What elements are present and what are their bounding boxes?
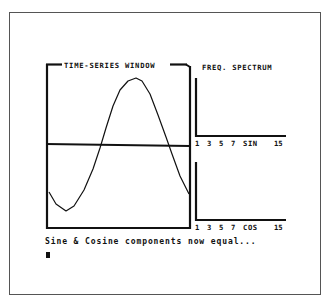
ts-border-corner bbox=[186, 65, 190, 68]
freq-title: FREQ. SPECTRUM bbox=[202, 63, 272, 72]
cos-tick-15: 15 bbox=[274, 223, 283, 232]
cos-tick-3: 3 bbox=[207, 223, 211, 232]
sin-tick-15: 15 bbox=[274, 139, 283, 148]
ts-title: TIME-SERIES WINDOW bbox=[64, 61, 155, 70]
sin-axis-label: SIN bbox=[243, 139, 258, 148]
sin-tick-3: 3 bbox=[207, 139, 211, 148]
sin-tick-5: 5 bbox=[219, 139, 223, 148]
cos-tick-5: 5 bbox=[219, 223, 223, 232]
sin-tick-1: 1 bbox=[195, 139, 199, 148]
time-series-window: TIME-SERIES WINDOW bbox=[46, 61, 191, 229]
freq-spectrum: FREQ. SPECTRUM 1 3 5 7 SIN 15 1 3 5 7 CO… bbox=[195, 63, 286, 232]
cos-axis-label: COS bbox=[243, 223, 258, 232]
sin-spectrum-panel: 1 3 5 7 SIN 15 bbox=[195, 78, 286, 148]
text-cursor[interactable] bbox=[46, 252, 50, 258]
cos-tick-7: 7 bbox=[231, 223, 235, 232]
console-message: Sine & Cosine components now equal... bbox=[45, 237, 257, 246]
sin-tick-7: 7 bbox=[231, 139, 235, 148]
display-canvas: TIME-SERIES WINDOW FREQ. SPECTRUM 1 3 5 … bbox=[0, 0, 329, 304]
cos-tick-1: 1 bbox=[195, 223, 199, 232]
cos-spectrum-panel: 1 3 5 7 COS 15 bbox=[195, 162, 286, 232]
